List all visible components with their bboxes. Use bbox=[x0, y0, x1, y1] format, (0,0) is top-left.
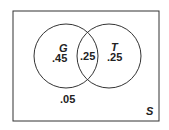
universe-rectangle bbox=[13, 11, 159, 121]
set-t-only-value: .25 bbox=[107, 51, 122, 63]
intersection-value: .25 bbox=[80, 50, 95, 62]
set-g-only-value: .45 bbox=[52, 52, 67, 64]
universe-label: S bbox=[146, 105, 154, 117]
outside-value: .05 bbox=[60, 93, 75, 105]
venn-diagram: G .45 .25 T .25 .05 S bbox=[0, 0, 169, 130]
